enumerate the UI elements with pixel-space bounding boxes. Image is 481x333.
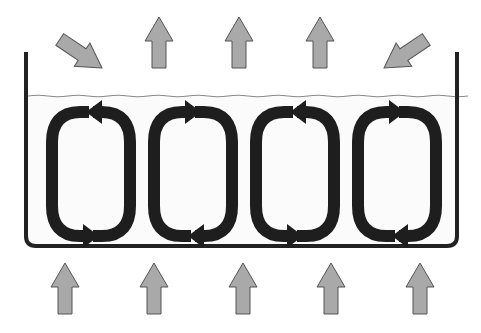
convection-diagram bbox=[0, 0, 481, 333]
heat-up-arrow-icon bbox=[406, 263, 434, 314]
diagonal-arrow-icon bbox=[376, 28, 434, 80]
heat-up-arrow-icon bbox=[229, 263, 257, 314]
up-arrow-icon bbox=[145, 17, 173, 68]
diagram-canvas bbox=[0, 0, 481, 333]
up-arrow-icon bbox=[306, 17, 334, 68]
diagonal-arrow-icon bbox=[52, 28, 110, 80]
heat-source-arrows bbox=[51, 263, 434, 314]
up-arrow-icon bbox=[225, 17, 253, 68]
heat-up-arrow-icon bbox=[51, 263, 79, 314]
heat-up-arrow-icon bbox=[140, 263, 168, 314]
heat-up-arrow-icon bbox=[317, 263, 345, 314]
top-arrows bbox=[52, 17, 434, 80]
